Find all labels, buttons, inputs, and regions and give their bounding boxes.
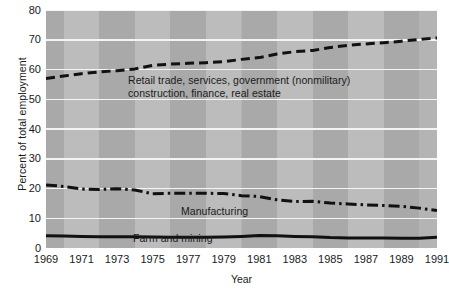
y-tick-label: 20 (16, 183, 41, 194)
series-line (46, 236, 437, 239)
y-tick-label: 10 (16, 213, 41, 224)
y-tick-label: 50 (16, 94, 41, 105)
y-tick-label: 40 (16, 124, 41, 135)
y-tick-label: 70 (16, 34, 41, 45)
y-tick-label: 80 (16, 5, 41, 16)
annotation-services: Retail trade, services, government (nonm… (128, 74, 350, 99)
x-tick-label: 1985 (318, 252, 342, 266)
y-tick-label: 60 (16, 64, 41, 75)
x-axis-tick-labels: 1969197119731975197719791981198319851987… (46, 252, 437, 268)
x-tick-label: 1989 (389, 252, 413, 266)
plot-area: Retail trade, services, government (nonm… (46, 10, 437, 248)
x-axis-title: Year (46, 272, 437, 286)
x-tick-label: 1971 (69, 252, 93, 266)
x-tick-label: 1983 (283, 252, 307, 266)
annotation-services-line-2: construction, finance, real estate (128, 87, 350, 100)
annotation-farm-and-mining: Farm and mining (133, 232, 213, 245)
annotation-manufacturing: Manufacturing (181, 205, 248, 218)
y-tick-label: 30 (16, 153, 41, 164)
series-line (46, 38, 437, 78)
x-tick-label: 1977 (176, 252, 200, 266)
x-tick-label: 1987 (354, 252, 378, 266)
x-tick-label: 1969 (34, 252, 58, 266)
x-tick-label: 1979 (211, 252, 235, 266)
x-tick-label: 1973 (105, 252, 129, 266)
x-tick-label: 1975 (140, 252, 164, 266)
annotation-services-line-1: Retail trade, services, government (nonm… (128, 74, 350, 87)
x-tick-label: 1981 (247, 252, 271, 266)
x-tick-label: 1991 (425, 252, 449, 266)
